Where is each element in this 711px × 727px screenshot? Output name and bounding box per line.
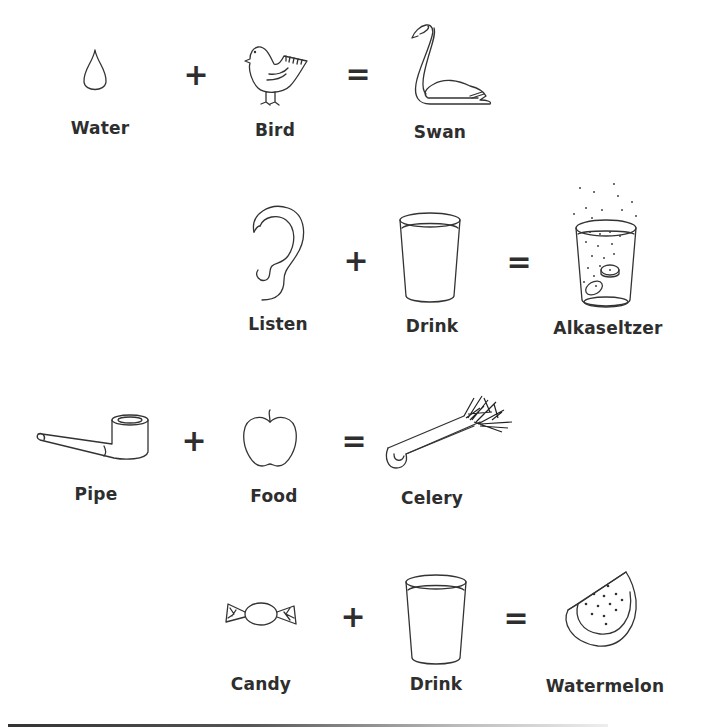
candy-icon (224, 600, 298, 630)
water-drop-icon (80, 48, 110, 96)
term-label: Swan (414, 122, 466, 142)
glass-icon (398, 212, 462, 306)
bird-icon (244, 44, 314, 110)
plus-sign: + (340, 602, 365, 632)
plus-sign: + (183, 60, 208, 90)
term-label: Celery (401, 488, 463, 508)
plus-sign: + (181, 426, 206, 456)
term-label: Bird (255, 120, 295, 140)
term-label: Pipe (75, 484, 118, 504)
swan-icon (408, 22, 496, 114)
watermelon-icon (560, 570, 640, 650)
equals-sign: = (345, 59, 370, 89)
term-label: Drink (406, 316, 459, 336)
term-label: Watermelon (546, 676, 665, 696)
plus-sign: + (343, 246, 368, 276)
fizzing-glass-icon (570, 176, 640, 310)
pipe-icon (34, 412, 152, 462)
equals-sign: = (341, 426, 366, 456)
equals-sign: = (506, 247, 531, 277)
celery-icon (384, 392, 520, 476)
apple-icon (242, 408, 298, 470)
term-label: Food (250, 486, 297, 506)
term-label: Alkaseltzer (553, 318, 662, 338)
ear-icon (250, 204, 310, 304)
glass-icon (404, 574, 468, 668)
term-label: Candy (231, 674, 291, 694)
term-label: Listen (248, 314, 308, 334)
equals-sign: = (503, 603, 528, 633)
term-label: Water (71, 118, 130, 138)
term-label: Drink (410, 674, 463, 694)
